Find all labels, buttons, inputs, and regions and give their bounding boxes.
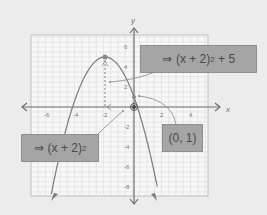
- leader-point-dot: [138, 95, 140, 97]
- y-tick-label: -4: [124, 144, 130, 150]
- x-tick-label: -6: [44, 112, 50, 118]
- y-tick-label: -2: [124, 124, 130, 130]
- label-step1-base: (x + 2): [48, 141, 82, 155]
- label-step2-base: (x + 2): [176, 52, 210, 66]
- y-tick-label: -8: [124, 184, 130, 190]
- y-intercept-point: [132, 95, 136, 99]
- arrow-icon: ⇒: [34, 141, 44, 155]
- graph-figure: x y -6-4-224 642-2-4-6-8 ⇒ (x + 2)2 + 5 …: [0, 0, 267, 215]
- x-axis-label: x: [225, 105, 231, 114]
- label-point: (0, 1): [162, 124, 203, 152]
- leader-step1-dot: [122, 110, 124, 112]
- arrow-icon: ⇒: [162, 52, 172, 66]
- label-point-text: (0, 1): [168, 131, 196, 145]
- y-tick-label: -6: [124, 164, 130, 170]
- coordinate-plane: x y -6-4-224 642-2-4-6-8: [0, 0, 267, 215]
- label-step1-exp: 2: [82, 144, 86, 153]
- y-axis-label: y: [130, 16, 136, 25]
- label-step2-suffix: + 5: [215, 52, 235, 66]
- x-tick-label: -4: [73, 112, 79, 118]
- label-step2: ⇒ (x + 2)2 + 5: [140, 45, 257, 73]
- x-tick-label: -2: [102, 112, 108, 118]
- leader-step2-dot: [109, 81, 111, 83]
- label-step1: ⇒ (x + 2)2: [21, 134, 99, 162]
- vertex-point: [103, 55, 108, 60]
- origin-point: [132, 105, 136, 109]
